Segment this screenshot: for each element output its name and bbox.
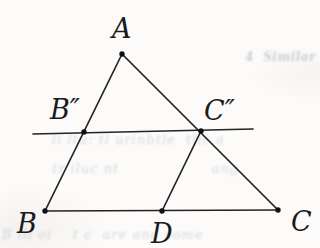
point-B-dot bbox=[42, 208, 47, 213]
transversal-Bpp-Cpp bbox=[33, 129, 253, 134]
label-A: A bbox=[109, 13, 132, 44]
scanned-page: 4 Similar Trianglli ltu: tl urinbtle tli… bbox=[0, 0, 320, 248]
label-C: C bbox=[291, 206, 312, 237]
point-C-dot bbox=[275, 207, 280, 212]
point-A-dot bbox=[119, 51, 124, 56]
point-D-dot bbox=[159, 208, 164, 213]
label-D: D bbox=[150, 218, 173, 248]
point-C2-dot bbox=[198, 128, 203, 133]
geometry-figure: ABCDB″C″ bbox=[0, 0, 320, 248]
label-B: B bbox=[16, 208, 37, 239]
label-C2: C″ bbox=[204, 95, 235, 126]
label-B2: B″ bbox=[49, 94, 80, 125]
cevian-D-Cpp bbox=[162, 131, 201, 211]
point-B2-dot bbox=[81, 129, 86, 134]
